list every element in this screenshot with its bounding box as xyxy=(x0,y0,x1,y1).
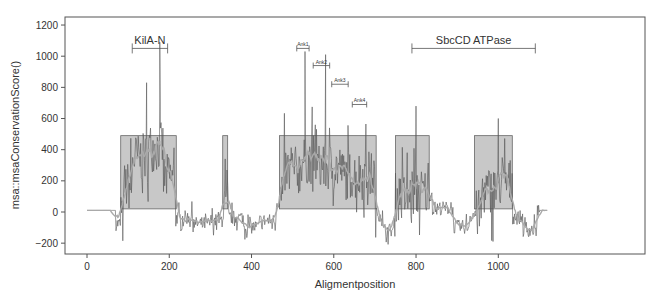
y-tick-label: 1200 xyxy=(36,20,59,31)
y-tick-label: 0 xyxy=(52,207,58,218)
domain-label: Ank2 xyxy=(316,59,328,65)
y-axis-label: msa::msaConservationScore() xyxy=(9,61,21,210)
y-tick-label: 200 xyxy=(41,175,58,186)
y-axis: −200020040060080010001200 xyxy=(35,20,65,249)
domain-label: Ank3 xyxy=(334,77,346,83)
y-tick-label: −200 xyxy=(35,238,58,249)
y-tick-label: 400 xyxy=(41,144,58,155)
x-axis: 02004006008001000 xyxy=(84,254,510,272)
x-tick-label: 800 xyxy=(408,261,425,272)
x-tick-label: 200 xyxy=(161,261,178,272)
y-tick-label: 1000 xyxy=(36,51,59,62)
domain-label: SbcCD ATPase xyxy=(436,34,512,46)
domain-label: Ank4 xyxy=(354,97,366,103)
y-tick-label: 800 xyxy=(41,82,58,93)
x-axis-label: Aligmentposition xyxy=(315,278,396,290)
domain-label: KilA-N xyxy=(134,34,165,46)
x-tick-label: 400 xyxy=(243,261,260,272)
x-tick-label: 600 xyxy=(325,261,342,272)
domain-label: Ank1 xyxy=(297,41,309,47)
y-tick-label: 600 xyxy=(41,113,58,124)
conservation-chart: KilA-NSbcCD ATPaseAnk1Ank2Ank3Ank4 02004… xyxy=(0,0,661,297)
x-tick-label: 0 xyxy=(84,261,90,272)
x-tick-label: 1000 xyxy=(487,261,510,272)
domain-annotations: KilA-NSbcCD ATPaseAnk1Ank2Ank3Ank4 xyxy=(132,34,535,107)
